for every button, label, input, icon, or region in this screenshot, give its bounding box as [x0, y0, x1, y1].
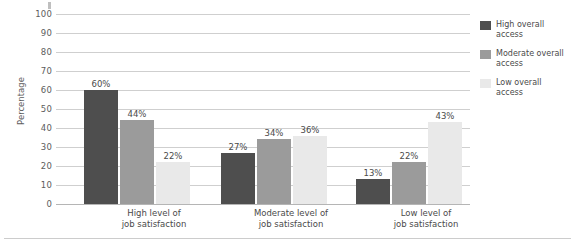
legend-label-high-overall-access: High overall access: [496, 20, 575, 39]
grid-line-baseline: [56, 204, 470, 205]
bar-label-moderate-low-access: 36%: [290, 125, 330, 135]
y-tick-0: 0: [22, 199, 52, 209]
y-tick-10: 10: [22, 180, 52, 190]
bar-low-moderate-access[interactable]: [392, 162, 426, 204]
category-label-high: High level of job satisfaction: [84, 208, 224, 230]
plot-area: 60% 44% 22% 27% 34% 36% 13% 22% 43%: [56, 14, 470, 204]
bar-label-low-high-access: 13%: [353, 168, 393, 178]
bar-high-low-access[interactable]: [156, 162, 190, 204]
y-tick-20: 20: [22, 161, 52, 171]
bar-group-high: 60% 44% 22%: [84, 14, 224, 204]
y-tick-100: 100: [22, 9, 52, 19]
bar-label-moderate-moderate-access: 34%: [254, 128, 294, 138]
bar-label-high-high-access: 60%: [81, 79, 121, 89]
bar-label-moderate-high-access: 27%: [218, 142, 258, 152]
category-high-line1: High level of: [84, 208, 224, 219]
bar-moderate-moderate-access[interactable]: [257, 139, 291, 204]
legend-swatch-icon-moderate-overall-access: [480, 50, 491, 59]
y-axis-ticks: 0 10 20 30 40 50 60 70 80 90 100: [22, 14, 52, 204]
category-high-line2: job satisfaction: [84, 219, 224, 230]
bottom-divider: [4, 238, 571, 239]
category-moderate-line1: Moderate level of: [221, 208, 361, 219]
legend-swatch-icon-low-overall-access: [480, 79, 491, 88]
category-low-line1: Low level of: [356, 208, 496, 219]
bar-label-high-low-access: 22%: [153, 151, 193, 161]
y-tick-40: 40: [22, 123, 52, 133]
legend-high-line1: High overall: [496, 20, 575, 30]
legend-low-line2: access: [496, 88, 575, 98]
category-low-line2: job satisfaction: [356, 219, 496, 230]
bar-high-moderate-access[interactable]: [120, 120, 154, 204]
legend-moderate-line1: Moderate overall: [496, 49, 575, 59]
bar-moderate-high-access[interactable]: [221, 153, 255, 204]
corner-artifact: [48, 2, 51, 9]
bar-group-low: 13% 22% 43%: [356, 14, 496, 204]
bar-low-low-access[interactable]: [428, 122, 462, 204]
y-tick-50: 50: [22, 104, 52, 114]
y-tick-90: 90: [22, 28, 52, 38]
bar-label-high-moderate-access: 44%: [117, 109, 157, 119]
legend-item-high-overall-access[interactable]: High overall access: [480, 20, 575, 40]
bar-group-moderate: 27% 34% 36%: [221, 14, 361, 204]
bar-label-low-moderate-access: 22%: [389, 151, 429, 161]
legend-label-moderate-overall-access: Moderate overall access: [496, 49, 575, 68]
legend-item-moderate-overall-access[interactable]: Moderate overall access: [480, 49, 575, 69]
y-tick-70: 70: [22, 66, 52, 76]
y-tick-80: 80: [22, 47, 52, 57]
category-label-moderate: Moderate level of job satisfaction: [221, 208, 361, 230]
category-moderate-line2: job satisfaction: [221, 219, 361, 230]
legend-moderate-line2: access: [496, 59, 575, 69]
legend-label-low-overall-access: Low overall access: [496, 78, 575, 97]
bar-label-low-low-access: 43%: [425, 111, 465, 121]
legend-high-line2: access: [496, 30, 575, 40]
y-tick-30: 30: [22, 142, 52, 152]
bar-moderate-low-access[interactable]: [293, 136, 327, 204]
legend-low-line1: Low overall: [496, 78, 575, 88]
y-tick-60: 60: [22, 85, 52, 95]
legend-item-low-overall-access[interactable]: Low overall access: [480, 78, 575, 98]
chart-legend: High overall access Moderate overall acc…: [480, 20, 575, 107]
legend-swatch-icon-high-overall-access: [480, 21, 491, 30]
bar-chart: Percentage 0 10 20 30 40 50 60 70 80 90 …: [0, 0, 575, 247]
x-axis-categories: High level of job satisfaction Moderate …: [56, 208, 470, 238]
bar-high-high-access[interactable]: [84, 90, 118, 204]
bar-low-high-access[interactable]: [356, 179, 390, 204]
category-label-low: Low level of job satisfaction: [356, 208, 496, 230]
bars-layer: 60% 44% 22% 27% 34% 36% 13% 22% 43%: [56, 14, 470, 204]
